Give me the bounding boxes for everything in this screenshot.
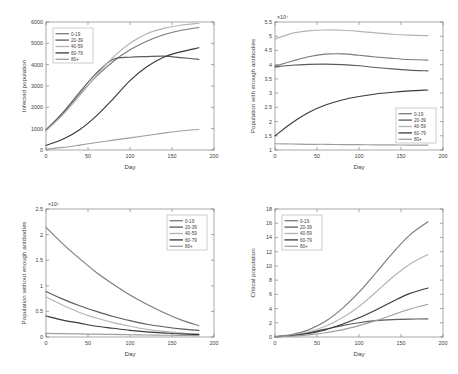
y-tick-label: 0 [269, 334, 272, 340]
legend-label-60-79: 60-79 [414, 131, 426, 136]
x-tick-label: 200 [210, 340, 219, 346]
y-tick-label: 1 [269, 147, 272, 153]
legend-label-60-79: 60-79 [185, 238, 197, 243]
y-tick-label: 18 [266, 206, 272, 212]
x-tick-label: 100 [355, 153, 364, 159]
plot-area-infected-population: 0501001502000100020003000400050006000Day… [0, 0, 229, 187]
y-tick-label: 2 [40, 232, 43, 238]
y-axis-title: Population with enough antibodies [249, 39, 256, 133]
y-tick-label: 2.5 [265, 104, 273, 110]
figure-canvas: 0501001502000100020003000400050006000Day… [0, 0, 458, 374]
legend: 0-1920-3940-5960-7980+ [167, 215, 207, 250]
legend-label-20-39: 20-39 [300, 225, 312, 230]
legend: 0-1920-3940-5960-7980+ [53, 28, 93, 63]
subplot-critical-population: 050100150200024681012141618DayCritical p… [229, 187, 458, 374]
legend-label-40-59: 40-59 [414, 124, 426, 129]
x-tick-label: 0 [45, 153, 48, 159]
y-tick-label: 3.5 [265, 76, 273, 82]
y-tick-label: 6 [269, 291, 272, 297]
legend-label-20-39: 20-39 [71, 38, 83, 43]
y-axis-title: Critical population [249, 248, 256, 298]
y-tick-label: 5000 [31, 40, 43, 46]
y-tick-label: 2.5 [36, 206, 44, 212]
legend-label-80plus: 80+ [71, 57, 79, 62]
x-tick-label: 100 [126, 340, 135, 346]
x-tick-label: 200 [210, 153, 219, 159]
x-tick-label: 0 [274, 153, 277, 159]
y-axis-exponent-label: ×10⁴ [277, 14, 288, 20]
x-tick-label: 200 [439, 340, 448, 346]
subplot-population-with-enough-antibodies: 05010015020011.522.533.544.555.5×10⁴DayP… [229, 0, 458, 187]
x-tick-label: 150 [397, 153, 406, 159]
legend-label-20-39: 20-39 [185, 225, 197, 230]
y-tick-label: 8 [269, 277, 272, 283]
legend-label-0-19: 0-19 [300, 219, 310, 224]
y-axis-exponent-label: ×10⁴ [48, 201, 59, 207]
y-tick-label: 0.5 [36, 308, 44, 314]
y-tick-label: 4000 [31, 62, 43, 68]
y-tick-label: 2000 [31, 104, 43, 110]
legend-label-0-19: 0-19 [414, 112, 424, 117]
y-tick-label: 0 [40, 334, 43, 340]
x-tick-label: 100 [126, 153, 135, 159]
y-tick-label: 4 [269, 306, 272, 312]
x-tick-label: 50 [85, 340, 91, 346]
series-line-80plus [275, 144, 428, 145]
legend-label-0-19: 0-19 [185, 219, 195, 224]
x-tick-label: 50 [314, 340, 320, 346]
x-axis-title: Day [124, 350, 136, 357]
y-axis-title: Infected population [20, 59, 27, 112]
series-line-20-39 [46, 56, 199, 130]
legend-label-40-59: 40-59 [300, 231, 312, 236]
y-tick-label: 14 [266, 234, 272, 240]
x-axis-title: Day [124, 163, 136, 170]
y-tick-label: 1 [40, 283, 43, 289]
x-axis-title: Day [353, 163, 365, 170]
y-tick-label: 6000 [31, 19, 43, 25]
subplot-infected-population: 0501001502000100020003000400050006000Day… [0, 0, 229, 187]
series-line-20-39 [275, 64, 428, 71]
y-tick-label: 5 [269, 33, 272, 39]
x-tick-label: 0 [45, 340, 48, 346]
legend-label-60-79: 60-79 [71, 51, 83, 56]
y-tick-label: 2 [269, 119, 272, 125]
x-tick-label: 0 [274, 340, 277, 346]
plot-area-population-without-enough-antibodies: 05010015020000.511.522.5×10⁴DayPopulatio… [0, 187, 229, 374]
legend-label-20-39: 20-39 [414, 118, 426, 123]
y-tick-label: 12 [266, 249, 272, 255]
y-tick-label: 10 [266, 263, 272, 269]
x-tick-label: 50 [314, 153, 320, 159]
y-tick-label: 4.5 [265, 47, 273, 53]
x-tick-label: 100 [355, 340, 364, 346]
y-tick-label: 16 [266, 220, 272, 226]
series-line-80plus [46, 130, 199, 150]
y-tick-label: 3000 [31, 83, 43, 89]
x-tick-label: 150 [397, 340, 406, 346]
y-tick-label: 5.5 [265, 19, 273, 25]
x-axis-title: Day [353, 350, 365, 357]
legend-label-40-59: 40-59 [71, 44, 83, 49]
y-tick-label: 1.5 [36, 257, 44, 263]
plot-area-critical-population: 050100150200024681012141618DayCritical p… [229, 187, 458, 374]
x-tick-label: 50 [85, 153, 91, 159]
legend: 0-1920-3940-5960-7980+ [396, 108, 436, 143]
legend-label-80plus: 80+ [300, 244, 308, 249]
y-tick-label: 4 [269, 62, 272, 68]
legend-label-80plus: 80+ [414, 137, 422, 142]
x-tick-label: 150 [168, 153, 177, 159]
legend-label-80plus: 80+ [185, 244, 193, 249]
y-tick-label: 1.5 [265, 133, 273, 139]
subplot-population-without-enough-antibodies: 05010015020000.511.522.5×10⁴DayPopulatio… [0, 187, 229, 374]
y-tick-label: 2 [269, 320, 272, 326]
legend: 0-1920-3940-5960-7980+ [282, 215, 322, 250]
y-tick-label: 0 [40, 147, 43, 153]
series-line-0-19 [275, 54, 428, 66]
legend-label-40-59: 40-59 [185, 231, 197, 236]
legend-label-60-79: 60-79 [300, 238, 312, 243]
y-tick-label: 3 [269, 90, 272, 96]
plot-area-population-with-enough-antibodies: 05010015020011.522.533.544.555.5×10⁴DayP… [229, 0, 458, 187]
x-tick-label: 200 [439, 153, 448, 159]
x-tick-label: 150 [168, 340, 177, 346]
y-axis-title: Population without enough antibodies [20, 222, 27, 325]
series-line-40-59 [275, 30, 428, 39]
